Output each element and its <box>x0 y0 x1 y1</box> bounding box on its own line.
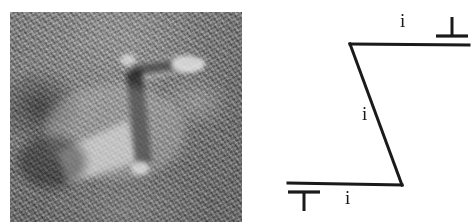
edge-dislocation-symbol-top-right <box>436 17 468 36</box>
schematic-panel: i i i <box>262 0 475 222</box>
burgers-vector-label-top: i <box>400 11 405 30</box>
dislocation-inclined-segment <box>350 44 402 185</box>
figure-root: i i i <box>0 0 475 222</box>
micrograph-image <box>10 12 242 222</box>
dislocation-bottom-segment <box>288 183 402 185</box>
burgers-vector-label-bottom: i <box>345 188 350 207</box>
dislocation-schematic <box>262 0 475 222</box>
micrograph-panel <box>10 12 242 222</box>
edge-dislocation-symbol-bottom-left <box>288 192 320 211</box>
burgers-vector-label-middle: i <box>362 104 367 123</box>
dislocation-top-segment <box>350 44 469 45</box>
